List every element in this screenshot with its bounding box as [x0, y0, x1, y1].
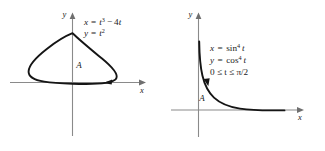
y-axis-label-left: y	[62, 9, 67, 19]
equation-x-left: x=t3−4t	[83, 16, 122, 27]
parametric-curves-figure: y x A x=t3−4t y=t2	[0, 0, 325, 151]
y-axis-right	[196, 13, 202, 138]
region-label-right: A	[198, 93, 205, 103]
equation-x-right: x=sin4t	[209, 42, 245, 53]
equation-y-right: y=cos4t	[209, 54, 247, 65]
figure-panel-left: y x A x=t3−4t y=t2	[0, 0, 163, 151]
equation-y-left: y=t2	[83, 27, 105, 38]
y-axis-left	[70, 13, 76, 137]
y-axis-label-right: y	[188, 9, 193, 19]
x-axis-label-left: x	[139, 85, 144, 95]
x-axis-label-right: x	[297, 112, 302, 122]
region-label-left: A	[75, 60, 82, 70]
equation-domain-right: 0 ≤ t ≤ π/2	[210, 67, 249, 77]
figure-panel-right: y x A x=sin4t y=cos4t 0 ≤ t ≤ π/2	[163, 0, 325, 151]
